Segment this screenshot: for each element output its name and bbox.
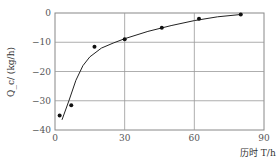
x-tick-label: 30	[119, 133, 131, 143]
y-tick-label: −20	[32, 67, 51, 77]
x-tick-label: 60	[189, 133, 201, 143]
x-axis-label: 历时 T/h	[240, 147, 276, 158]
data-point	[92, 45, 96, 49]
y-axis-label: Q_c/ (kg/h)	[6, 47, 17, 97]
data-point	[123, 37, 127, 41]
fitted-curve	[62, 15, 241, 120]
y-tick-label: 0	[45, 8, 51, 18]
x-tick-label: 0	[52, 133, 58, 143]
chart: 0−10−20−30−400306090 历时 T/h Q_c/ (kg/h)	[0, 0, 277, 164]
data-point	[69, 103, 73, 107]
data-points	[58, 12, 243, 117]
y-tick-label: −30	[32, 96, 51, 106]
data-point	[58, 113, 62, 117]
data-point	[197, 17, 201, 21]
x-tick-label: 90	[258, 133, 270, 143]
grid	[55, 13, 264, 130]
data-point	[239, 12, 243, 16]
y-tick-label: −10	[32, 37, 51, 47]
y-tick-label: −40	[32, 125, 51, 135]
tick-labels: 0−10−20−30−400306090	[32, 8, 270, 143]
data-point	[160, 26, 164, 30]
